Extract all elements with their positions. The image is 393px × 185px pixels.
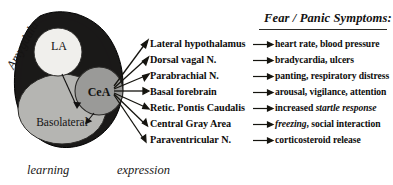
symptom-item: increased startle response	[253, 100, 393, 116]
arrow-right-icon	[253, 36, 275, 52]
symptom-item: arousal, vigilance, attention	[253, 84, 393, 100]
target-item: Retic. Pontis Caudalis	[150, 100, 250, 116]
projection-arrow-7	[114, 95, 146, 142]
symptom-text: panting, respiratory distress	[275, 68, 389, 84]
symptom-item: heart rate, blood pressure	[253, 36, 393, 52]
symptom-item: panting, respiratory distress	[253, 68, 393, 84]
target-structures-list: Lateral hypothalamus Dorsal vagal N. Par…	[150, 36, 250, 148]
projection-arrows-group	[112, 28, 154, 150]
arrow-right-icon	[253, 52, 275, 68]
symptom-item: corticosteroid release	[253, 132, 393, 148]
symptom-text: increased startle response	[275, 100, 376, 116]
figure-root: Amygdala LA CeA Basolateral	[0, 0, 393, 185]
symptom-text: bradycardia, ulcers	[275, 52, 354, 68]
region-label-basolateral: Basolateral	[24, 116, 100, 128]
symptom-item: bradycardia, ulcers	[253, 52, 393, 68]
caption-expression: expression	[117, 163, 170, 178]
symptoms-heading: Fear / Panic Symptoms:	[264, 11, 392, 26]
projection-arrow-6	[114, 94, 148, 126]
symptom-text: arousal, vigilance, attention	[275, 84, 386, 100]
target-item: Lateral hypothalamus	[150, 36, 250, 52]
symptoms-list: heart rate, blood pressure bradycardia, …	[253, 36, 393, 148]
symptom-text: corticosteroid release	[275, 132, 361, 148]
projection-arrow-5	[114, 93, 149, 109]
arrow-right-icon	[253, 116, 275, 132]
arrow-right-icon	[253, 68, 275, 84]
projection-arrow-1	[114, 40, 148, 86]
target-item: Parabrachial N.	[150, 68, 250, 84]
projection-arrows-svg	[112, 28, 154, 150]
region-label-la: LA	[41, 39, 77, 54]
target-item: Dorsal vagal N.	[150, 52, 250, 68]
symptom-text: heart rate, blood pressure	[275, 36, 379, 52]
symptom-item: freezing, social interaction	[253, 116, 393, 132]
target-item: Paraventricular N.	[150, 132, 250, 148]
arrow-right-icon	[253, 100, 275, 116]
target-item: Central Gray Area	[150, 116, 250, 132]
caption-learning: learning	[27, 163, 69, 178]
projection-arrow-3	[114, 74, 149, 89]
arrow-right-icon	[253, 132, 275, 148]
arrow-right-icon	[253, 84, 275, 100]
target-item: Basal forebrain	[150, 84, 250, 100]
symptoms-heading-underline	[259, 29, 387, 30]
symptom-text: freezing, social interaction	[275, 116, 380, 132]
projection-arrow-4	[114, 88, 149, 94]
